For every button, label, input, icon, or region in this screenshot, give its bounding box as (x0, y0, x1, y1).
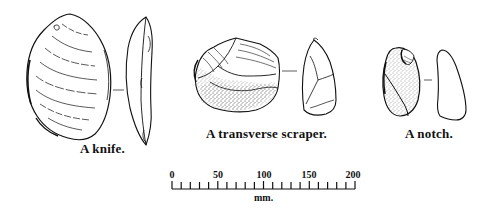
notch-side-drawing (437, 50, 466, 120)
transverse-scraper-caption: A transverse scraper. (206, 126, 327, 142)
scale-label-150: 150 (302, 169, 317, 180)
scraper-side-drawing (303, 38, 337, 115)
scale-label-50: 50 (213, 169, 223, 180)
notch-caption: A notch. (405, 126, 453, 142)
knife-side-drawing (126, 17, 152, 145)
knife-caption: A knife. (80, 141, 125, 157)
knife-face-drawing (27, 14, 111, 140)
scale-label-100: 100 (257, 169, 272, 180)
scale-label-0: 0 (170, 169, 175, 180)
notch-face-drawing (383, 48, 420, 116)
scale-bar (172, 181, 355, 189)
scale-unit-label: mm. (254, 192, 273, 203)
stone-tools-illustration (0, 0, 496, 210)
scale-label-200: 200 (346, 169, 361, 180)
scraper-face-drawing (194, 38, 279, 112)
